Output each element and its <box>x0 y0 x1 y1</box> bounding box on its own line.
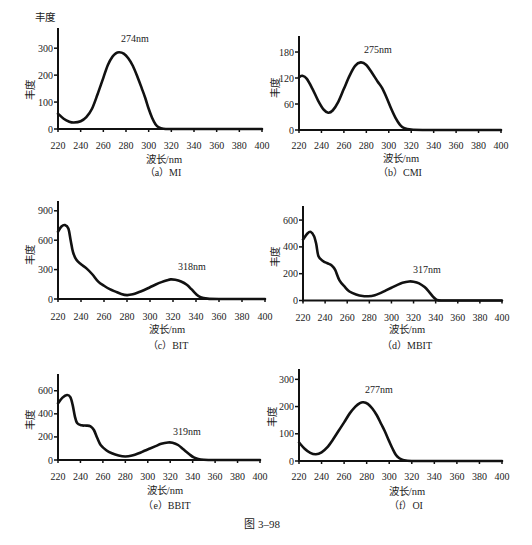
x-tick-label: 280 <box>359 140 374 151</box>
x-tick-label: 360 <box>212 311 227 322</box>
y-tick-label: 0 <box>48 124 53 135</box>
x-tick-label: 320 <box>164 140 179 151</box>
x-tick-label: 320 <box>404 140 419 151</box>
y-tick-label: 300 <box>38 264 53 275</box>
x-tick-label: 400 <box>495 312 510 323</box>
panel-c: 2202402602803003203403603804000300600900… <box>24 201 273 351</box>
y-tick-label: 200 <box>38 70 53 81</box>
panel-caption: （e）BBIT <box>143 500 190 511</box>
x-tick-label: 320 <box>163 471 178 482</box>
x-axis-label: 波长/nm <box>389 485 425 497</box>
x-tick-label: 320 <box>404 471 419 482</box>
x-tick-label: 380 <box>472 312 487 323</box>
panel-f: 2202402602803003203403603804000100200300… <box>266 369 510 511</box>
panel-caption: （f）OI <box>389 500 423 511</box>
y-tick-label: 400 <box>38 408 53 419</box>
y-tick-label: 400 <box>283 241 298 252</box>
spectrum-curve <box>58 225 265 299</box>
peak-label: 274nm <box>121 33 149 44</box>
x-tick-label: 400 <box>494 140 509 151</box>
x-tick-label: 240 <box>73 471 88 482</box>
panel-caption: （b）CMI <box>378 167 422 178</box>
peak-label: 317nm <box>413 264 441 275</box>
panel-e: 2202402602803003203403603804000200400600… <box>24 374 268 511</box>
x-tick-label: 280 <box>359 471 374 482</box>
x-tick-label: 360 <box>449 140 464 151</box>
x-tick-label: 280 <box>118 471 133 482</box>
x-tick-label: 360 <box>208 471 223 482</box>
x-tick-label: 240 <box>74 311 89 322</box>
figure-caption: 图 3–98 <box>244 518 280 530</box>
y-axis-label: 丰度 <box>24 244 36 265</box>
figure-3-98: 丰度 2202402602803003203403603804000100200… <box>0 0 532 545</box>
spectrum-curve <box>58 52 262 129</box>
x-tick-label: 220 <box>292 471 307 482</box>
x-tick-label: 340 <box>426 140 441 151</box>
x-tick-label: 260 <box>337 471 352 482</box>
peak-label: 318nm <box>178 261 206 272</box>
x-axis-label: 波长/nm <box>149 323 185 335</box>
x-tick-label: 220 <box>296 312 311 323</box>
x-tick-label: 220 <box>51 140 66 151</box>
corner-abundance-label: 丰度 <box>35 11 56 23</box>
y-tick-label: 900 <box>38 205 53 216</box>
peak-label: 319nm <box>173 426 201 437</box>
y-tick-label: 200 <box>279 401 294 412</box>
y-axis-label: 丰度 <box>269 77 281 98</box>
x-tick-label: 340 <box>187 140 202 151</box>
x-axis-label: 波长/nm <box>146 153 182 165</box>
x-tick-label: 220 <box>51 311 66 322</box>
y-tick-label: 200 <box>38 431 53 442</box>
y-tick-label: 0 <box>289 125 294 136</box>
x-tick-label: 220 <box>51 471 66 482</box>
x-tick-label: 340 <box>428 312 443 323</box>
panel-b: 2202402602803003203403603804000601201802… <box>269 36 509 178</box>
y-axis-label: 丰度 <box>269 246 281 267</box>
x-tick-label: 260 <box>340 312 355 323</box>
y-axis-label: 丰度 <box>266 406 278 427</box>
x-tick-label: 340 <box>189 311 204 322</box>
y-tick-label: 0 <box>289 456 294 467</box>
x-tick-label: 380 <box>230 471 245 482</box>
y-tick-label: 600 <box>38 385 53 396</box>
x-tick-label: 380 <box>235 311 250 322</box>
peak-label: 275nm <box>364 44 392 55</box>
x-tick-label: 280 <box>120 311 135 322</box>
x-tick-label: 380 <box>472 471 487 482</box>
y-axis-label: 丰度 <box>24 79 36 100</box>
x-tick-label: 280 <box>362 312 377 323</box>
x-tick-label: 380 <box>232 140 247 151</box>
x-tick-label: 300 <box>143 311 158 322</box>
x-tick-label: 300 <box>382 471 397 482</box>
x-tick-label: 300 <box>384 312 399 323</box>
y-tick-label: 100 <box>38 97 53 108</box>
x-tick-label: 400 <box>258 311 273 322</box>
y-tick-label: 0 <box>293 295 298 306</box>
x-tick-label: 400 <box>253 471 268 482</box>
x-tick-label: 340 <box>427 471 442 482</box>
y-tick-label: 60 <box>284 99 294 110</box>
x-axis-label: 波长/nm <box>389 323 425 335</box>
spectrum-curve <box>58 395 260 460</box>
x-tick-label: 320 <box>166 311 181 322</box>
y-tick-label: 120 <box>279 73 294 84</box>
x-tick-label: 240 <box>73 140 88 151</box>
x-tick-label: 300 <box>141 140 156 151</box>
panel-a: 2202402602803003203403603804000100200300… <box>24 28 270 178</box>
x-tick-label: 380 <box>471 140 486 151</box>
y-tick-label: 0 <box>48 294 53 305</box>
x-tick-label: 300 <box>140 471 155 482</box>
x-tick-label: 260 <box>95 471 110 482</box>
x-tick-label: 260 <box>336 140 351 151</box>
x-tick-label: 300 <box>381 140 396 151</box>
x-tick-label: 320 <box>406 312 421 323</box>
y-axis-label: 丰度 <box>24 409 36 430</box>
spectrum-curve <box>299 62 501 130</box>
panel-caption: （d）MBIT <box>382 340 432 351</box>
x-tick-label: 260 <box>96 140 111 151</box>
y-tick-label: 180 <box>279 47 294 58</box>
x-tick-label: 400 <box>255 140 270 151</box>
x-tick-label: 240 <box>314 471 329 482</box>
chart-panels: 2202402602803003203403603804000100200300… <box>24 28 510 511</box>
y-tick-label: 200 <box>283 268 298 279</box>
